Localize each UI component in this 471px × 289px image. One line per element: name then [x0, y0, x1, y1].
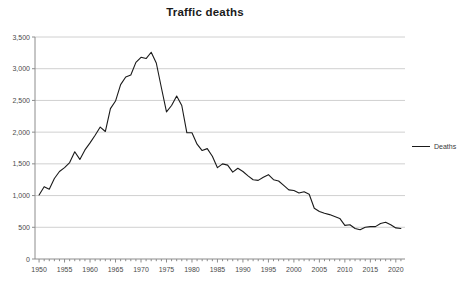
- x-tick-label: 1960: [82, 266, 98, 273]
- y-tick-label: 1,500: [12, 160, 30, 167]
- x-tick-label: 2015: [363, 266, 379, 273]
- legend-label-deaths: Deaths: [434, 143, 456, 150]
- chart-plot-area: 05001,0001,5002,0002,5003,0003,500 19501…: [0, 0, 471, 289]
- x-tick-label: 1955: [57, 266, 73, 273]
- y-tick-label: 2,500: [12, 97, 30, 104]
- y-tick-label: 3,000: [12, 65, 30, 72]
- traffic-deaths-chart: Traffic deaths 05001,0001,5002,0002,5003…: [0, 0, 471, 289]
- y-tick-label: 1,000: [12, 192, 30, 199]
- x-tick-label: 1995: [261, 266, 277, 273]
- x-tick-label: 2005: [312, 266, 328, 273]
- y-tick-label: 500: [18, 224, 30, 231]
- x-tick-label: 2020: [388, 266, 404, 273]
- y-tick-label: 3,500: [12, 34, 30, 41]
- data-line-deaths: [39, 52, 401, 230]
- y-tick-label: 2,000: [12, 129, 30, 136]
- gridlines-group: [35, 37, 405, 227]
- x-tick-label: 1950: [31, 266, 47, 273]
- x-tick-label: 1980: [184, 266, 200, 273]
- y-axis-tick-labels: 05001,0001,5002,0002,5003,0003,500: [12, 34, 35, 263]
- x-tick-label: 2000: [286, 266, 302, 273]
- x-axis-minor-ticks: [39, 259, 401, 263]
- x-tick-label: 2010: [337, 266, 353, 273]
- x-tick-label: 1985: [210, 266, 226, 273]
- x-tick-label: 1965: [108, 266, 124, 273]
- y-tick-label: 0: [26, 256, 30, 263]
- x-axis-tick-labels: 1950195519601965197019751980198519901995…: [31, 266, 403, 273]
- x-tick-label: 1970: [133, 266, 149, 273]
- x-tick-label: 1975: [159, 266, 175, 273]
- x-tick-label: 1990: [235, 266, 251, 273]
- chart-legend: Deaths: [412, 143, 456, 150]
- legend-line-swatch: [412, 146, 430, 147]
